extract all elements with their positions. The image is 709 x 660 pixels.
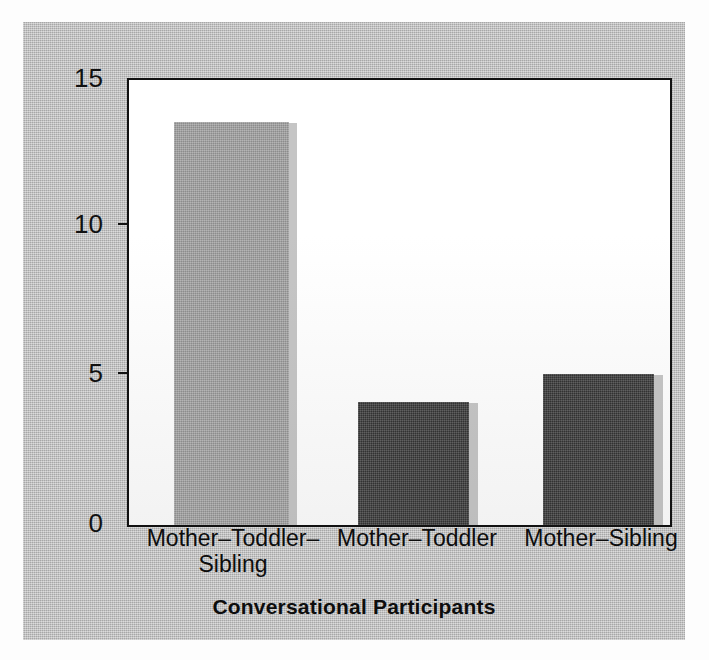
x-axis-category-label-2: Mother–Toddler	[311, 526, 523, 552]
bar-mother-toddler-sibling	[174, 122, 289, 525]
y-axis-tick-label-5: 5	[57, 358, 103, 389]
y-axis-tick-label-0: 0	[57, 508, 103, 539]
plot-area	[127, 78, 672, 527]
figure-page: Mean Length of Conversation in Turns 15 …	[0, 0, 709, 660]
y-axis-tick-label-15: 15	[57, 63, 103, 94]
bar-mother-toddler	[358, 402, 469, 525]
x-axis-title: Conversational Participants	[23, 595, 685, 619]
figure-panel: Mean Length of Conversation in Turns 15 …	[23, 22, 685, 640]
bar-mother-sibling	[543, 374, 654, 525]
x-axis-category-label-1: Mother–Toddler– Sibling	[127, 526, 339, 578]
x-axis-category-label-3: Mother–Sibling	[495, 526, 707, 552]
y-axis-tick-label-10: 10	[57, 209, 103, 240]
